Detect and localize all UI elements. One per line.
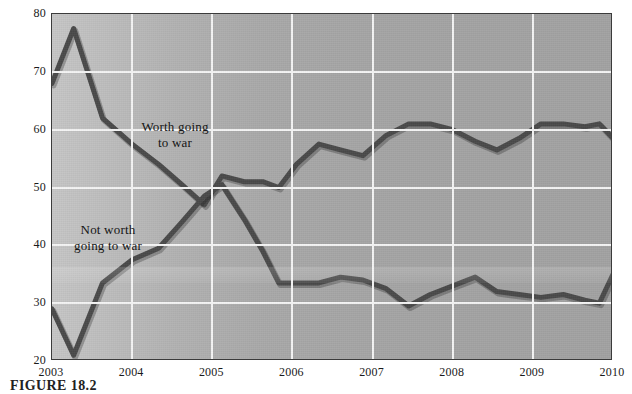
x-tick-label: 2004 [101,366,161,378]
y-tick-label: 80 [6,7,46,19]
series-line-shadow [54,187,613,358]
x-tick-label: 2006 [261,366,321,378]
annotation-worth-going-to-war: Worth going to war [123,119,227,151]
y-tick-label: 40 [6,238,46,250]
x-tick-label: 2005 [181,366,241,378]
gridline-vertical [211,14,213,359]
x-tick-label: 2003 [21,366,81,378]
annotation-not-worth-going-to-war: Not worth going to war [56,222,160,254]
gridline-vertical [372,14,374,359]
y-tick-label: 70 [6,65,46,77]
figure-container: Percent 20304050607080 20032004200520062… [0,0,632,394]
gridline-horizontal [52,71,611,73]
series-line [52,185,612,356]
x-tick-label: 2010 [582,366,632,378]
gridline-horizontal [52,302,611,304]
gridline-vertical [291,14,293,359]
x-tick-label: 2009 [502,366,562,378]
y-tick-label: 60 [6,123,46,135]
gridline-horizontal [52,187,611,189]
gridline-vertical [532,14,534,359]
y-tick-label: 30 [6,296,46,308]
x-tick-label: 2008 [422,366,482,378]
gridline-vertical [452,14,454,359]
plot-area [51,13,612,360]
gridline-vertical [131,14,133,359]
series-line [52,28,612,204]
y-tick-label: 50 [6,181,46,193]
x-tick-label: 2007 [342,366,402,378]
figure-caption: FIGURE 18.2 [10,378,97,394]
